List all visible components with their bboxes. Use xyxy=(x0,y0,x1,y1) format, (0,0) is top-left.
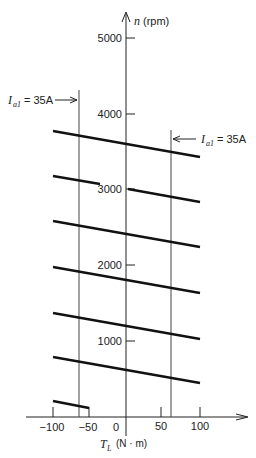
x-tick-minus-100: −100 xyxy=(40,421,65,433)
y-tick-4000: 4000 xyxy=(98,108,122,120)
x-tick-50: 50 xyxy=(155,420,167,432)
svg-text:a1: a1 xyxy=(206,139,214,148)
x-tick-minus-50: −50 xyxy=(79,421,98,433)
x-tick-100: 100 xyxy=(191,420,209,432)
svg-text:L: L xyxy=(106,444,112,453)
svg-text:= 35A: = 35A xyxy=(217,133,247,145)
series-line-7 xyxy=(53,401,89,408)
y-tick-labels: 5000 4000 3000 2000 1000 xyxy=(98,32,124,347)
svg-text:a1: a1 xyxy=(13,100,21,109)
x-tick-0: 0 xyxy=(113,421,119,433)
x-tick-labels: −100 −50 0 50 100 xyxy=(40,420,210,433)
svg-text:(N · m): (N · m) xyxy=(116,438,147,449)
series-line-2a xyxy=(53,176,100,184)
y-tick-5000: 5000 xyxy=(98,32,122,44)
y-tick-1000: 1000 xyxy=(98,335,122,347)
svg-text:(rpm): (rpm) xyxy=(143,15,169,27)
y-tick-2000: 2000 xyxy=(98,259,122,271)
svg-text:n: n xyxy=(134,14,140,28)
y-axis-label: n (rpm) xyxy=(134,14,169,28)
svg-text:= 35A: = 35A xyxy=(24,94,54,106)
series-line-2b xyxy=(128,189,200,202)
x-axis-label: T L (N · m) xyxy=(100,437,147,453)
left-current-annotation: I a1 = 35A xyxy=(7,93,77,109)
y-tick-3000: 3000 xyxy=(98,183,122,195)
speed-torque-diagram: 5000 4000 3000 2000 1000 −100 −50 0 50 1… xyxy=(0,0,256,458)
right-current-annotation: I a1 = 35A xyxy=(173,132,247,148)
